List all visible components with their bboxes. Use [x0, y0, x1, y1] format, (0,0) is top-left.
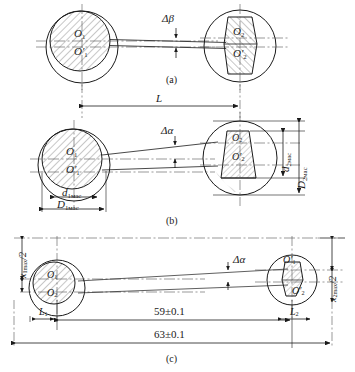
- panel-b-shaft: [102, 142, 218, 170]
- label-O1-c: O1: [47, 270, 57, 281]
- label-O-a-right-upper: O2: [233, 26, 244, 38]
- panel-a-right-hub: [200, 4, 290, 90]
- label-delta-alpha-c: Δα: [233, 254, 245, 265]
- label-O-b-right-upper: O2: [232, 133, 242, 144]
- label-D1-meas: D1мас: [57, 199, 79, 211]
- label-delta-alpha-b: Δα: [161, 125, 173, 136]
- label-O2-prime-c: O′2: [292, 286, 305, 297]
- label-d2-meas: d2мас: [280, 153, 292, 172]
- label-span-63: 63±0.1: [154, 329, 185, 340]
- panel-caption-b: (b): [166, 215, 178, 226]
- label-O2-c: O2: [47, 288, 57, 299]
- label-span-59: 59±0.1: [154, 306, 185, 317]
- panel-b-left-hub: [30, 120, 215, 208]
- label-x2max-half: x2max/2: [328, 276, 339, 302]
- label-L2: L2: [290, 307, 299, 318]
- panel-caption-a: (a): [166, 74, 177, 85]
- label-O-prime-a-right-lower: O′2: [233, 48, 247, 60]
- panel-caption-c: (c): [166, 353, 177, 364]
- panel-a-left-hub: [36, 4, 218, 90]
- label-O-prime-b-right-lower: O′2: [232, 152, 245, 163]
- label-O-b-left-upper: O1: [66, 146, 77, 158]
- label-x1max-half: x1max/2: [18, 252, 29, 278]
- label-O-prime-b-left-lower: O′1: [66, 164, 80, 176]
- label-O1-prime-c: O′1: [283, 255, 296, 266]
- label-L1: L1: [39, 307, 48, 318]
- label-O-a-left-upper: O1: [74, 28, 85, 40]
- label-delta-beta: Δβ: [162, 13, 174, 24]
- label-D2-meas: D2мас: [296, 167, 308, 189]
- label-O-prime-a-left-lower: O′1: [74, 46, 88, 58]
- label-L: L: [156, 93, 162, 104]
- panel-c-shaft: [78, 269, 288, 293]
